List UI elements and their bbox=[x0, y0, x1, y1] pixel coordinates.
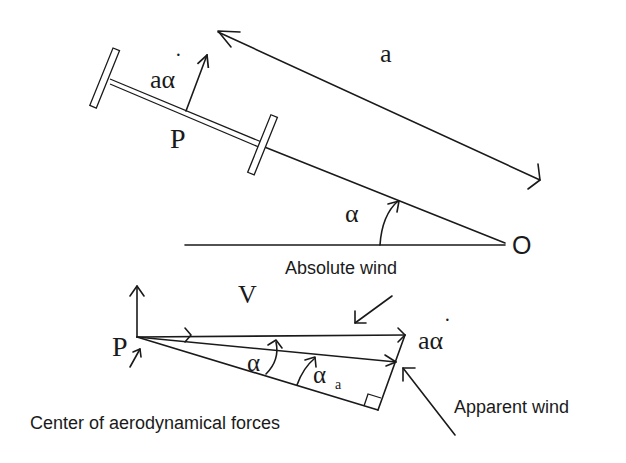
label-center-forces: Center of aerodynamical forces bbox=[30, 413, 280, 433]
label-alpha-bottom: α bbox=[247, 349, 260, 376]
label-rotation-speed-top: aα bbox=[150, 65, 176, 94]
alpha-arc-bottom bbox=[266, 342, 277, 374]
dot-top: · bbox=[175, 44, 182, 66]
dimension-a bbox=[218, 31, 540, 189]
right-angle-marker bbox=[364, 394, 381, 406]
label-apparent-wind: Apparent wind bbox=[454, 397, 569, 417]
dot-bottom: · bbox=[444, 309, 451, 331]
label-V: V bbox=[238, 280, 257, 309]
dimension-line bbox=[218, 32, 540, 180]
arm-line bbox=[262, 146, 505, 243]
label-alpha-a-subscript: a bbox=[335, 377, 342, 392]
label-O: O bbox=[512, 231, 531, 259]
mid-arrow-head-icon bbox=[185, 328, 191, 342]
left-end-plate bbox=[90, 48, 120, 108]
rod-upper bbox=[110, 79, 264, 143]
label-P-bottom: P bbox=[112, 331, 128, 362]
label-alpha-a: α bbox=[313, 361, 326, 388]
label-absolute-wind: Absolute wind bbox=[285, 258, 397, 278]
rotation-speed-arrow bbox=[186, 55, 207, 111]
diagram-canvas: a aα · P α O Absolute wind bbox=[0, 0, 626, 463]
label-rotation-speed-bottom: aα bbox=[418, 326, 444, 355]
alpha-arc-bottom-head-icon bbox=[268, 340, 282, 348]
alpha-arc bbox=[380, 201, 398, 245]
label-alpha-top: α bbox=[345, 199, 359, 228]
apparent-wind-arrow bbox=[403, 368, 455, 435]
label-P-top: P bbox=[170, 123, 186, 154]
absolute-wind-arrow bbox=[355, 296, 392, 323]
tangential-vector bbox=[137, 335, 405, 337]
label-a: a bbox=[380, 39, 392, 68]
closing-side bbox=[378, 335, 405, 410]
